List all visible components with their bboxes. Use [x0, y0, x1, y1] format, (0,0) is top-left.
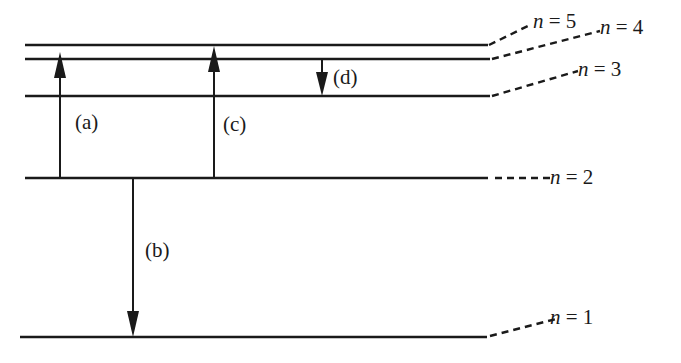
level-label-n4: n = 4 [600, 15, 644, 39]
leader-dash-n1 [490, 319, 556, 336]
level-n5: n = 5 [25, 9, 576, 45]
leader-dash-n4 [492, 31, 600, 59]
transition-label-c: (c) [223, 112, 246, 136]
arrow-up-icon [54, 52, 66, 78]
level-n1: n = 1 [20, 305, 593, 337]
transition-label-d: (d) [333, 65, 358, 89]
level-label-n3: n = 3 [578, 57, 621, 81]
level-label-n2: n = 2 [550, 165, 593, 189]
transition-a: (a) [54, 52, 98, 178]
transition-label-b: (b) [145, 238, 170, 262]
level-n2: n = 2 [25, 165, 593, 189]
arrow-down-icon [127, 311, 139, 337]
arrow-down-icon [316, 72, 328, 96]
transition-d: (d) [316, 59, 358, 96]
leader-dash-n3 [492, 71, 578, 96]
transition-b: (b) [127, 178, 170, 337]
leader-dash-n5 [489, 24, 532, 45]
level-label-n5: n = 5 [533, 9, 576, 33]
level-label-n1: n = 1 [550, 305, 593, 329]
transition-label-a: (a) [75, 110, 98, 134]
energy-level-diagram: n = 5 n = 4 n = 3 n = 2 n = 1 (a) (c) (d… [0, 0, 681, 363]
transition-c: (c) [208, 46, 246, 178]
